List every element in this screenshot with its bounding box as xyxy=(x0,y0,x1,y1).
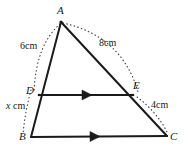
vertex-label-B: B xyxy=(19,131,26,142)
vertex-label-A: A xyxy=(57,5,64,16)
vertex-label-E: E xyxy=(133,80,140,91)
measure-variable-x: x xyxy=(6,100,10,111)
arrow-marker-de xyxy=(82,90,92,100)
measure-label-ad: 6cm xyxy=(20,41,37,51)
measure-label-ae: 8cm xyxy=(99,38,116,48)
arrow-marker-bc xyxy=(90,132,100,142)
dotted-guide-db xyxy=(23,90,31,134)
dotted-guide-ae xyxy=(63,23,138,92)
measure-label-db: x cm xyxy=(6,101,25,111)
vertex-dot-D xyxy=(38,94,41,97)
geometry-figure: A B C D E 6cm 8cm x cm 4cm xyxy=(0,0,189,155)
vertex-label-C: C xyxy=(170,131,177,142)
figure-canvas xyxy=(0,0,189,155)
dotted-guide-ad xyxy=(34,24,60,92)
measure-label-ec: 4cm xyxy=(151,100,168,110)
measure-unit-db: cm xyxy=(13,100,25,111)
vertex-dot-E xyxy=(132,94,135,97)
vertex-dot-A xyxy=(59,20,62,23)
vertex-label-D: D xyxy=(26,85,34,96)
